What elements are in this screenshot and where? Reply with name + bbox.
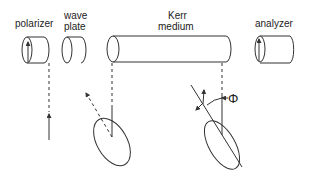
elliptical-polarization-1 — [86, 63, 138, 172]
phi-angle-arc — [207, 98, 222, 105]
analyzer-icon — [255, 36, 294, 63]
elliptical-polarization-2 — [191, 63, 247, 175]
polarizer-icon — [22, 37, 49, 63]
kerr-medium-icon — [107, 36, 231, 62]
diagram-canvas — [0, 0, 313, 177]
wave-plate-icon — [62, 37, 86, 63]
